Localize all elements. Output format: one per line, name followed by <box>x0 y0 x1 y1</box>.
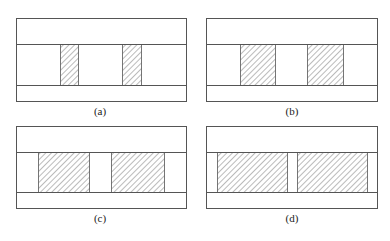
hatched-bar <box>308 45 344 86</box>
panel-d <box>206 127 378 209</box>
caption-b: (b) <box>262 105 322 117</box>
caption-c: (c) <box>70 212 130 224</box>
hatched-bar <box>61 45 79 86</box>
caption-d: (d) <box>262 212 322 224</box>
hatched-bar <box>112 153 165 193</box>
diagram-canvas <box>0 0 390 241</box>
caption-a: (a) <box>70 105 130 117</box>
panel-a <box>16 19 187 102</box>
hatched-bar <box>39 153 90 193</box>
outer-frame <box>17 19 187 102</box>
hatched-bar <box>298 153 368 193</box>
hatched-bar <box>123 45 142 86</box>
hatched-bar <box>241 45 276 86</box>
panel-b <box>206 19 378 102</box>
outer-frame <box>207 19 378 102</box>
panel-c <box>16 127 187 209</box>
figure: (a) (b) (c) (d) <box>0 0 390 241</box>
hatched-bar <box>218 153 288 193</box>
